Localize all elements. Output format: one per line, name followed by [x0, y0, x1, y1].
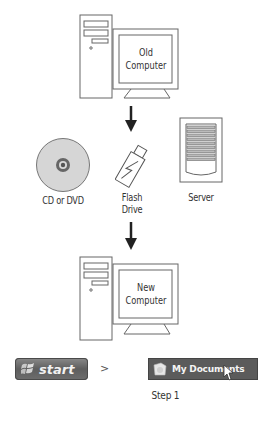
start-button[interactable]: start: [15, 358, 88, 380]
old-computer: Old Computer: [78, 12, 180, 102]
label-line: Computer: [121, 59, 170, 72]
new-computer: New Computer: [78, 254, 180, 344]
mouse-cursor-icon: [223, 364, 235, 382]
my-documents-icon: [152, 361, 168, 377]
label-line: Flash: [112, 192, 153, 204]
start-label: start: [39, 362, 74, 377]
server-label: Server: [181, 192, 222, 204]
flash-drive-label: Flash Drive: [112, 192, 153, 216]
arrow-down-icon: [125, 106, 137, 132]
step-separator: >: [100, 362, 109, 375]
cd-dvd-icon: [35, 137, 91, 193]
label-line: Drive: [112, 204, 153, 216]
my-documents-menu-item[interactable]: My Documents: [148, 358, 258, 380]
label-line: New: [121, 281, 170, 294]
old-computer-label: Old Computer: [121, 46, 170, 72]
cd-dvd-label: CD or DVD: [34, 195, 91, 207]
flash-drive-icon: [115, 143, 149, 189]
arrow-down-icon: [125, 222, 137, 250]
step-caption: Step 1: [152, 390, 185, 402]
server-icon: [178, 116, 224, 184]
label-line: Old: [121, 46, 170, 59]
label-line: Computer: [121, 294, 170, 307]
new-computer-label: New Computer: [121, 281, 170, 307]
windows-logo-icon: [21, 363, 35, 375]
